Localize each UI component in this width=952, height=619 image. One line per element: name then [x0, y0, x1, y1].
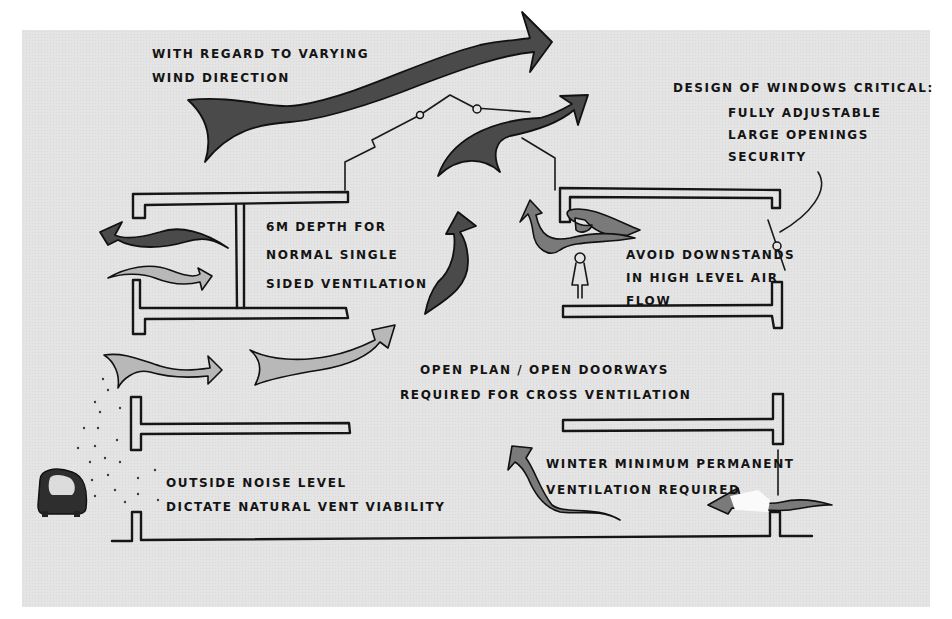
- annotation-line: ventilation required: [546, 477, 795, 503]
- annotation-item: large openings: [728, 124, 881, 146]
- annotation-item: Fully adjustable: [728, 102, 881, 124]
- vehicle-noise-source-icon: [38, 469, 86, 517]
- single-sided-inflow-arrow-icon: [108, 266, 212, 290]
- annotation-line: required for cross ventilation: [400, 383, 692, 407]
- roof-outline: [345, 95, 555, 190]
- annotation-cross-ventilation-2: required for cross ventilation: [400, 383, 692, 407]
- annotation-winter-ventilation: Winter minimum permanent ventilation req…: [546, 451, 795, 504]
- annotation-line: normal single: [266, 241, 428, 269]
- cross-vent-rising-arrow-icon: [250, 325, 395, 385]
- roof-vent-hinge-icon: [417, 112, 424, 119]
- internal-partition-wall: [236, 205, 244, 308]
- single-sided-outflow-arrow-icon: [100, 222, 228, 248]
- roof-vent-hinge-icon: [473, 105, 481, 113]
- annotation-outside-noise: Outside noise level dictate natural vent…: [166, 471, 446, 519]
- annotation-line: With regard to varying: [152, 42, 369, 66]
- noise-propagation-dots: [77, 378, 159, 503]
- annotation-line: flow: [626, 290, 795, 313]
- person-figure-icon: [572, 253, 588, 298]
- annotation-line: 6m depth for: [266, 213, 428, 241]
- annotation-wind-direction: With regard to varying wind direction: [152, 42, 369, 90]
- annotation-line: Outside noise level: [166, 471, 446, 495]
- upward-airflow-arrow-icon: [425, 212, 476, 314]
- annotation-window-criteria: Fully adjustable large openings security: [728, 102, 881, 168]
- annotation-line: wind direction: [152, 66, 369, 90]
- cross-vent-inflow-arrow-icon: [104, 354, 222, 388]
- annotation-downstands: Avoid downstands in high level air flow: [626, 243, 795, 312]
- stack-effect-arrow-icon: [438, 95, 588, 176]
- annotation-line: dictate natural vent viability: [166, 495, 446, 519]
- annotation-cross-ventilation: Open plan / open doorways: [420, 355, 669, 384]
- annotation-line: in high level air: [626, 266, 795, 289]
- annotation-heading: Design of windows critical:: [673, 76, 934, 100]
- annotation-line: sided ventilation: [266, 270, 428, 298]
- annotation-windows: Design of windows critical:: [673, 76, 934, 100]
- annotation-line: Avoid downstands: [626, 243, 795, 266]
- annotation-item: security: [728, 147, 881, 169]
- annotation-line: Open plan / open doorways: [420, 355, 669, 384]
- annotation-line: Winter minimum permanent: [546, 451, 795, 477]
- lower-floor-slab-left: [131, 397, 350, 450]
- annotation-6m-depth: 6m depth for normal single sided ventila…: [266, 213, 428, 298]
- high-level-circulation-arrow-icon: [520, 200, 640, 253]
